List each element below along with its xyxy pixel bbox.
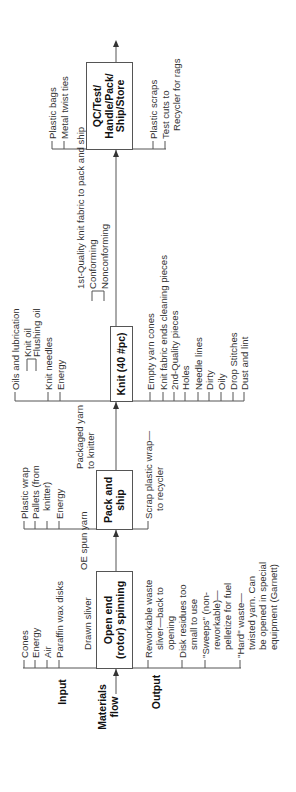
output-item: Test cuts to Recycler for rags	[160, 58, 182, 139]
legend-input: Input	[56, 662, 68, 722]
input-item: Air	[42, 646, 53, 658]
input-item: Flushing oil	[31, 308, 42, 357]
input-item: Paraffin wax disks	[54, 581, 65, 658]
process-open-end-spinning: Open end (rotor) spinning	[96, 571, 133, 669]
output-item: Knit fabric ends cleaning pieces	[158, 255, 169, 390]
input-item: Plastic bags	[47, 87, 58, 139]
feed-sub-item: Nonconforming	[99, 224, 110, 289]
output-item: "Hard" waste— twisted yarn. Can be opene…	[235, 562, 279, 658]
input-item: Knit needles	[43, 337, 54, 390]
feed-label: Drawn sliver	[82, 597, 93, 650]
materials-flow-diagram: Input Materials flow Output Open end (ro…	[0, 0, 296, 792]
input-item: Pallets (from knitter)	[30, 465, 52, 519]
output-item: Disk residues too small to use	[177, 584, 199, 658]
input-item: Metal twist ties	[59, 76, 70, 139]
legend-output: Output	[150, 662, 162, 722]
output-item: Drop Stitches	[228, 332, 239, 390]
feed-label: 1st-Quality knit fabric to pack and ship	[75, 127, 86, 289]
output-item: "Sweeps" (non- reworkable)— pelletize fo…	[200, 583, 233, 658]
feed-label: Packaged yarn to knitter	[74, 405, 96, 469]
output-item: Holes	[180, 365, 191, 390]
feed-sub-item: Conforming	[87, 239, 98, 289]
feed-label: OE spun yarn	[78, 511, 89, 570]
output-item: Dirty	[204, 370, 215, 390]
input-item: Cones	[19, 630, 30, 658]
input-item: Oils and lubrication	[10, 308, 21, 390]
output-item: 2nd-Quality pieces	[169, 311, 180, 390]
output-item: Empty yarn cones	[145, 313, 156, 390]
output-item: Oily	[216, 373, 227, 390]
output-item: Needle lines	[193, 337, 204, 390]
output-item: Dust and lint	[239, 337, 250, 390]
output-item: Plastic scraps	[148, 80, 159, 139]
output-item: Reworkable waste sliver—back to opening	[143, 580, 176, 658]
process-pack-and-ship: Pack and ship	[96, 470, 133, 530]
output-item: Scrap plastic wrap— to recycler	[143, 431, 165, 519]
input-item: Energy	[30, 628, 41, 658]
input-item: Energy	[55, 360, 66, 390]
process-knit: Knit (40 #pc)	[110, 326, 133, 402]
input-item: Plastic wrap	[19, 467, 30, 519]
input-item: Energy	[54, 489, 65, 519]
process-qc-test-handle-pack-ship-store: QC/Test/ Handle/Pack/ Ship/Store	[86, 62, 133, 150]
legend-materials-flow: Materials flow	[96, 672, 120, 742]
